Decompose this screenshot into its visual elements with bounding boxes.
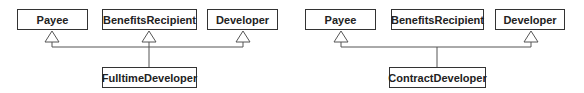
class-developer: Developer <box>207 9 278 30</box>
class-payee: Payee <box>305 9 376 30</box>
class-benefits-recipient: BenefitsRecipient <box>102 9 197 30</box>
class-label: BenefitsRecipient <box>391 14 484 26</box>
generalization-arrow-icon <box>236 31 250 42</box>
class-contract-developer: ContractDeveloper <box>389 67 486 88</box>
class-label: Payee <box>325 14 357 26</box>
class-label: ContractDeveloper <box>388 72 486 84</box>
generalization-arrow-icon <box>334 31 348 42</box>
class-label: Developer <box>503 14 556 26</box>
class-label: FulltimeDeveloper <box>102 72 197 84</box>
class-benefits-recipient: BenefitsRecipient <box>391 9 484 30</box>
class-label: BenefitsRecipient <box>103 14 196 26</box>
class-label: Payee <box>37 14 69 26</box>
class-fulltime-developer: FulltimeDeveloper <box>102 67 197 88</box>
class-label: Developer <box>216 14 269 26</box>
generalization-arrow-icon <box>524 31 538 42</box>
class-payee: Payee <box>17 9 88 30</box>
generalization-arrow-icon <box>142 31 156 42</box>
generalization-arrow-icon <box>45 31 59 42</box>
class-developer: Developer <box>495 9 565 30</box>
